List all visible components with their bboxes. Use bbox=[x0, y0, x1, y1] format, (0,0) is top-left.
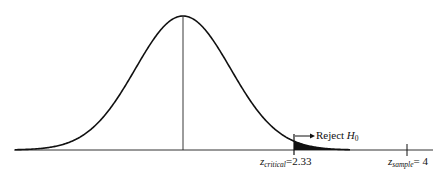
z-sample-label: zsample= 4 bbox=[388, 155, 428, 169]
z-critical-label: zcritical=2.33 bbox=[260, 155, 311, 169]
normal-curve bbox=[15, 16, 350, 150]
arrowhead-icon bbox=[310, 134, 315, 139]
normal-curve-figure bbox=[0, 0, 446, 178]
reject-label: Reject H0 bbox=[316, 129, 359, 143]
